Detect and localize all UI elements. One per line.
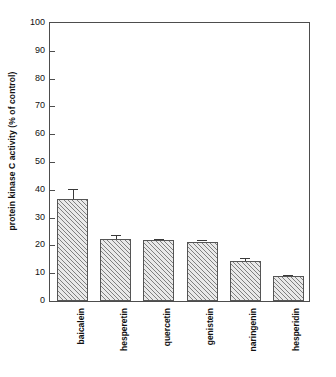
y-axis-tick-label: 0 (20, 296, 45, 305)
x-axis-tick-label: hesperidin (266, 302, 309, 377)
y-axis-tick-label: 60 (20, 129, 45, 138)
y-axis-tick-mark (50, 106, 55, 107)
error-bar-cap (197, 240, 207, 241)
error-bar-cap (68, 189, 78, 190)
x-axis-tick-label-text: hesperetin (119, 308, 129, 351)
bar-chart-figure: protein kinase C activity (% of control)… (0, 0, 336, 377)
y-axis-tick-label: 30 (20, 212, 45, 221)
y-axis-tick-label: 70 (20, 101, 45, 110)
bar (57, 199, 88, 301)
x-axis-tick-label-text: naringenin (248, 308, 258, 351)
error-bar (73, 189, 74, 198)
bar (230, 261, 261, 301)
plot-area (49, 22, 310, 302)
y-axis-tick-mark (50, 79, 55, 80)
bar (143, 240, 174, 301)
y-axis-tick-label: 50 (20, 157, 45, 166)
y-axis-tick-mark (50, 245, 55, 246)
y-axis-tick-labels: 0102030405060708090100 (20, 0, 45, 377)
y-axis-tick-mark (50, 51, 55, 52)
error-bar-cap (283, 275, 293, 276)
x-axis-tick-label-text: genistein (205, 308, 215, 345)
x-axis-tick-label: hesperetin (93, 302, 136, 377)
y-axis-tick-label: 100 (20, 18, 45, 27)
y-axis-tick-label: 80 (20, 73, 45, 82)
x-axis-tick-label: naringenin (223, 302, 266, 377)
x-axis-tick-label-text: hesperidin (291, 308, 301, 351)
y-axis-tick-label: 10 (20, 268, 45, 277)
bar (273, 276, 304, 301)
x-axis-tick-labels: baicaleinhesperetinquercetingenisteinnar… (49, 302, 310, 377)
y-axis-tick-label: 90 (20, 45, 45, 54)
x-axis-tick-label: baicalein (50, 302, 93, 377)
x-axis-tick-label: genistein (180, 302, 223, 377)
error-bar-cap (240, 258, 250, 259)
y-axis-tick-mark (50, 273, 55, 274)
error-bar-cap (154, 239, 164, 240)
y-axis-title-text: protein kinase C activity (% of control) (7, 72, 17, 231)
y-axis-tick-mark (50, 190, 55, 191)
bar (100, 239, 131, 301)
y-axis-tick-mark (50, 162, 55, 163)
bar (187, 242, 218, 301)
y-axis-tick-mark (50, 218, 55, 219)
x-axis-tick-label: quercetin (136, 302, 179, 377)
x-axis-tick-label-text: baicalein (76, 308, 86, 344)
y-axis-tick-label: 40 (20, 184, 45, 193)
error-bar-cap (111, 235, 121, 236)
y-axis-tick-mark (50, 134, 55, 135)
y-axis-tick-label: 20 (20, 240, 45, 249)
x-axis-tick-label-text: quercetin (162, 308, 172, 346)
